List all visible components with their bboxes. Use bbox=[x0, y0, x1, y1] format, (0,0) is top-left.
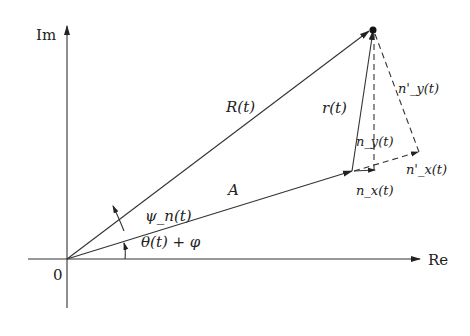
label-r-big: R(t) bbox=[226, 100, 255, 115]
label-nx: n_x(t) bbox=[356, 184, 394, 197]
label-r-small: r(t) bbox=[322, 101, 347, 116]
vector-r-small bbox=[352, 31, 373, 171]
origin-label: 0 bbox=[53, 268, 63, 283]
phasor-diagram: Im Re 0 R(t) A r(t) n_y(t) n_x(t) n'_x(t… bbox=[0, 0, 470, 336]
label-psi: ψ_n(t) bbox=[145, 209, 192, 224]
label-theta: θ(t) + φ bbox=[141, 235, 200, 250]
label-a: A bbox=[228, 183, 239, 198]
im-axis-label: Im bbox=[36, 28, 56, 43]
label-ny-prime: n'_y(t) bbox=[398, 82, 439, 95]
diagram-graphics bbox=[0, 0, 470, 336]
label-ny: n_y(t) bbox=[356, 135, 394, 148]
tip-point bbox=[370, 27, 377, 34]
re-axis-label: Re bbox=[428, 253, 448, 268]
angle-arc-psi bbox=[113, 206, 124, 231]
vector-r-big bbox=[67, 31, 369, 259]
vector-a bbox=[67, 171, 352, 259]
label-nx-prime: n'_x(t) bbox=[406, 163, 447, 176]
angle-arc-theta bbox=[124, 243, 125, 259]
